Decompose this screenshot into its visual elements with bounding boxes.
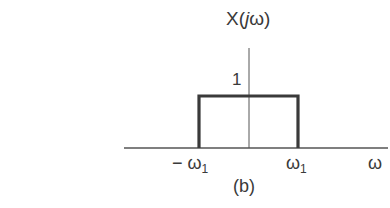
x-axis-label: ω [368, 153, 382, 174]
plot-title: X(jω) [226, 8, 270, 30]
figure-caption: (b) [233, 176, 255, 197]
pos-omega1-label: ω1 [286, 153, 307, 176]
neg-omega1-label: − ω1 [172, 153, 208, 176]
spectrum-plot [0, 0, 390, 208]
y-tick-label: 1 [232, 70, 241, 90]
